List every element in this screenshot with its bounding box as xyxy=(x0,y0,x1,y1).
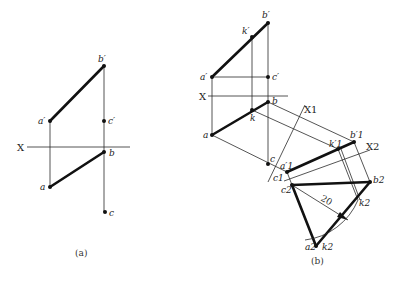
projection-line-a-to-a1 xyxy=(212,135,287,172)
segment-c2-b2 xyxy=(292,182,370,185)
point-b-prime xyxy=(102,64,106,68)
label-k-prime: k′ xyxy=(242,26,250,36)
point-b xyxy=(266,100,270,104)
point-a-prime xyxy=(48,119,52,123)
caption-b: (b) xyxy=(311,256,324,266)
point-a xyxy=(48,185,52,189)
point-c-prime xyxy=(102,119,106,123)
segment-a-b xyxy=(212,102,268,135)
label-x1-axis: X1 xyxy=(304,104,317,115)
label-k1-prime: k′1 xyxy=(329,139,342,149)
label-x-axis: X xyxy=(199,91,207,102)
projection-line-k1-to-k2 xyxy=(338,149,358,200)
point-b1-prime xyxy=(352,140,356,144)
point-k xyxy=(250,108,254,112)
point-a-prime xyxy=(210,75,214,79)
label-c: c xyxy=(270,154,275,164)
label-b: b xyxy=(109,148,115,158)
label-x2-axis: X2 xyxy=(366,141,379,152)
label-k2-bottom: k2 xyxy=(322,242,333,252)
figure-b: b′ k′ a′ c′ X b k a c X1 a′1 c1 k′1 b′1 … xyxy=(199,10,385,266)
descriptive-geometry-figure: b′ a′ c′ X b a c (a) xyxy=(0,0,394,284)
label-b-prime: b′ xyxy=(98,54,106,64)
figure-a: b′ a′ c′ X b a c (a) xyxy=(17,54,130,258)
label-a2: a2 xyxy=(305,242,316,252)
label-a-prime: a′ xyxy=(200,72,207,82)
dimension-label-20: 20 xyxy=(319,193,334,208)
label-c-prime: c′ xyxy=(108,116,115,126)
segment-c2-a2 xyxy=(292,185,316,246)
caption-a: (a) xyxy=(75,248,87,258)
segment-a-b xyxy=(50,152,104,187)
label-c-prime: c′ xyxy=(272,72,279,82)
point-k-prime xyxy=(250,35,254,39)
label-a: a xyxy=(40,182,45,192)
label-a-prime: a′ xyxy=(38,116,45,126)
label-b-prime: b′ xyxy=(262,10,270,20)
point-b2 xyxy=(368,180,372,184)
label-b2: b2 xyxy=(373,175,385,185)
segment-a-prime-b-prime xyxy=(50,66,104,121)
label-c1: c1 xyxy=(273,173,284,183)
label-c: c xyxy=(109,208,114,218)
label-k2-right: k2 xyxy=(359,198,370,208)
segment-a2-b2 xyxy=(316,182,370,246)
label-k: k xyxy=(250,113,255,123)
segment-a-prime-b-prime xyxy=(212,23,268,77)
label-c2: c2 xyxy=(281,185,292,195)
label-a1-prime: a′1 xyxy=(280,161,293,171)
projection-line-k-to-k1 xyxy=(252,110,338,149)
label-b1-prime: b′1 xyxy=(350,130,364,140)
point-b xyxy=(102,150,106,154)
point-a xyxy=(210,133,214,137)
point-c xyxy=(103,210,107,214)
label-b: b xyxy=(272,96,278,106)
point-c-prime xyxy=(266,75,270,79)
label-x-axis: X xyxy=(17,142,25,153)
label-a: a xyxy=(203,130,208,140)
point-b-prime xyxy=(266,21,270,25)
